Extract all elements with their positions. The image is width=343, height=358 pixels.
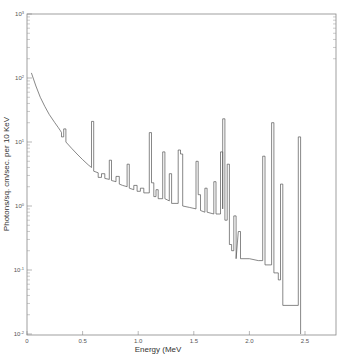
y-axis-title: Photons/sq. cm/sec. per 10 KeV xyxy=(2,116,11,231)
x-tick-label: 2.5 xyxy=(301,338,310,344)
x-tick-label: 1.5 xyxy=(190,338,199,344)
y-axis: 10-210-1100101102103 xyxy=(14,10,336,337)
x-axis-title: Energy (MeV xyxy=(135,345,182,354)
y-tick-label: 103 xyxy=(15,10,25,17)
x-tick-label: 0.5 xyxy=(78,338,87,344)
y-tick-label: 10-2 xyxy=(14,330,25,337)
spectrum-chart: 10-210-1100101102103 00.51.01.52.02.5 En… xyxy=(0,0,343,358)
y-tick-label: 100 xyxy=(15,202,25,209)
y-tick-label: 10-1 xyxy=(14,266,25,273)
y-tick-label: 102 xyxy=(15,74,25,81)
x-tick-label: 2.0 xyxy=(245,338,254,344)
spectrum-line xyxy=(31,73,300,334)
plot-frame xyxy=(27,14,336,335)
x-tick-label: 1.0 xyxy=(134,338,143,344)
x-tick-label: 0 xyxy=(25,338,29,344)
y-tick-label: 101 xyxy=(15,138,25,145)
x-axis: 00.51.01.52.02.5 xyxy=(25,331,310,344)
